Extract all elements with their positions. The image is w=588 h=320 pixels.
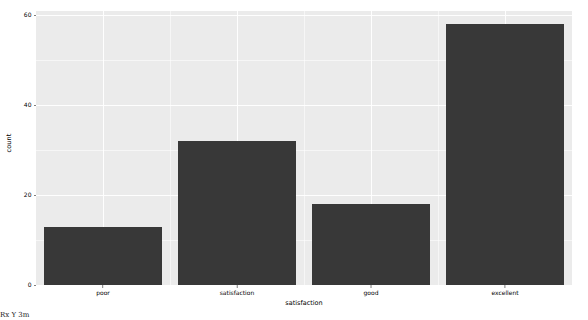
y-tick-label: 0 [28,280,34,290]
y-tick-label: 40 [24,100,34,110]
bar-satisfaction[interactable] [178,141,296,285]
x-tick-label: good [364,289,379,296]
bar-excellent[interactable] [446,24,564,285]
bar-poor[interactable] [44,227,162,285]
y-tick-60: 60 [24,10,36,20]
y-tick-label: 20 [24,190,34,200]
x-tick-label: poor [96,289,110,296]
plot-panel [36,11,572,285]
x-axis-title: satisfaction [36,299,572,307]
x-tick-poor: poor [96,285,110,296]
x-axis-title-label: satisfaction [285,299,322,307]
x-tick-mark [504,285,505,288]
y-tick-0: 0 [28,280,36,290]
x-tick-good: good [364,285,379,296]
x-tick-excellent: excellent [491,285,518,296]
x-tick-mark [103,285,104,288]
y-axis-title-label: count [5,133,13,152]
y-tick-20: 20 [24,190,36,200]
x-tick-satisfaction: satisfaction [220,285,255,296]
y-tick-40: 40 [24,100,36,110]
x-tick-label: satisfaction [220,289,255,296]
bottom-edge-artifact-text: Rx Y 3m [0,311,140,320]
x-tick-mark [237,285,238,288]
y-axis-title: count [2,0,16,285]
x-tick-label: excellent [491,289,518,296]
bar-chart: count 0204060 poorsatisfactiongoodexcell… [0,0,588,320]
y-axis-ticks: 0204060 [0,0,36,320]
bar-good[interactable] [312,204,430,285]
x-tick-mark [371,285,372,288]
y-tick-label: 60 [24,10,34,20]
bars-layer [36,11,572,285]
